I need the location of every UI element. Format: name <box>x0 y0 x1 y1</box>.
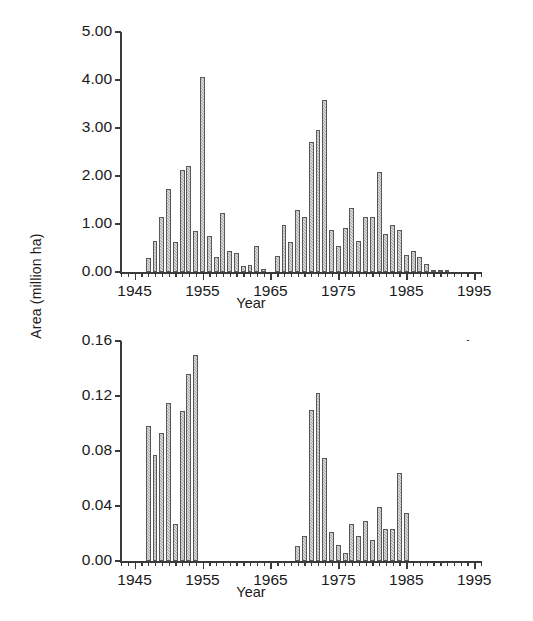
x-tick-mark-minor <box>447 562 448 566</box>
y-tick-mark <box>115 127 121 128</box>
x-tick-mark-minor <box>121 273 122 277</box>
x-tick-mark-minor <box>291 273 292 277</box>
x-tick-mark-minor <box>196 273 197 277</box>
x-tick-mark-major <box>270 273 271 280</box>
x-tick-mark-major <box>203 273 204 280</box>
plot-area-a <box>121 32 481 272</box>
bar <box>159 433 164 561</box>
x-tick-mark-minor <box>155 562 156 566</box>
bar <box>363 521 368 561</box>
x-tick-mark-minor <box>169 273 170 277</box>
x-tick-mark-minor <box>440 273 441 277</box>
x-tick-mark-minor <box>359 273 360 277</box>
x-tick-mark-minor <box>121 562 122 566</box>
bar <box>336 545 341 562</box>
bar <box>397 473 402 561</box>
x-tick-mark-minor <box>148 273 149 277</box>
x-tick-mark-major <box>135 562 136 569</box>
x-tick-mark-minor <box>243 562 244 566</box>
bar <box>329 532 334 561</box>
bar <box>316 130 321 272</box>
bar <box>193 355 198 561</box>
y-tick-mark <box>115 395 121 396</box>
bar <box>302 536 307 561</box>
bar <box>390 225 395 272</box>
x-tick-mark-minor <box>420 562 421 566</box>
bar <box>180 411 185 561</box>
y-tick-mark <box>115 450 121 451</box>
y-tick-mark <box>115 340 121 341</box>
bar <box>343 553 348 561</box>
x-tick-mark-minor <box>291 562 292 566</box>
x-tick-mark-minor <box>277 562 278 566</box>
bar <box>173 242 178 272</box>
x-tick-mark-minor <box>413 273 414 277</box>
bar <box>309 142 314 272</box>
y-axis-line-a <box>120 32 122 273</box>
bar <box>193 231 198 272</box>
x-tick-mark-minor <box>366 562 367 566</box>
bar <box>173 524 178 561</box>
y-tick-mark <box>115 31 121 32</box>
bar <box>383 234 388 272</box>
x-tick-mark-minor <box>128 562 129 566</box>
y-tick-label: 5.00 <box>42 22 112 40</box>
x-tick-mark-minor <box>420 273 421 277</box>
x-tick-label: 1975 <box>308 282 368 300</box>
y-tick-label: 0.08 <box>42 441 112 459</box>
bar <box>349 524 354 561</box>
x-tick-mark-minor <box>209 562 210 566</box>
x-tick-mark-minor <box>433 562 434 566</box>
x-tick-mark-minor <box>372 273 373 277</box>
figure-root: Area (million ha) a 0.001.002.003.004.00… <box>0 0 533 621</box>
x-tick-mark-minor <box>311 562 312 566</box>
x-tick-mark-minor <box>250 273 251 277</box>
panel-a: a 0.001.002.003.004.005.00 1945195519651… <box>0 0 533 310</box>
bar <box>370 217 375 272</box>
x-tick-mark-minor <box>345 562 346 566</box>
x-tick-mark-minor <box>298 562 299 566</box>
x-tick-mark-minor <box>216 562 217 566</box>
x-tick-mark-minor <box>372 562 373 566</box>
bar <box>363 217 368 272</box>
bar <box>159 217 164 272</box>
bar <box>220 213 225 272</box>
x-tick-mark-minor <box>325 562 326 566</box>
x-tick-label: 1945 <box>105 571 165 589</box>
y-tick-label: 0.00 <box>42 262 112 280</box>
x-tick-mark-minor <box>318 562 319 566</box>
y-tick-label: 0.00 <box>42 551 112 569</box>
x-tick-mark-minor <box>264 273 265 277</box>
x-tick-mark-minor <box>393 562 394 566</box>
x-tick-label: 1995 <box>444 571 504 589</box>
x-tick-mark-minor <box>189 562 190 566</box>
x-tick-mark-minor <box>298 273 299 277</box>
bar <box>248 265 253 272</box>
x-tick-mark-minor <box>359 562 360 566</box>
x-tick-mark-minor <box>413 562 414 566</box>
x-tick-mark-minor <box>169 562 170 566</box>
bar <box>370 540 375 561</box>
x-tick-mark-minor <box>332 273 333 277</box>
x-axis-label-b: Year <box>191 584 311 600</box>
x-tick-mark-major <box>474 562 475 569</box>
x-tick-mark-minor <box>162 562 163 566</box>
bar <box>404 513 409 561</box>
x-tick-mark-minor <box>461 273 462 277</box>
x-tick-mark-major <box>338 562 339 569</box>
x-tick-mark-minor <box>250 562 251 566</box>
bar <box>166 403 171 561</box>
bar <box>349 208 354 272</box>
x-tick-mark-minor <box>366 273 367 277</box>
bar <box>166 189 171 272</box>
bar <box>254 246 259 272</box>
x-tick-mark-minor <box>332 562 333 566</box>
x-tick-mark-minor <box>236 273 237 277</box>
panel-b: b 0.000.040.080.120.16 19451955196519751… <box>0 310 533 621</box>
y-tick-label: 0.16 <box>42 331 112 349</box>
x-tick-mark-minor <box>182 273 183 277</box>
x-tick-mark-minor <box>481 273 482 277</box>
x-tick-mark-minor <box>433 273 434 277</box>
x-tick-mark-minor <box>243 273 244 277</box>
x-tick-mark-minor <box>182 562 183 566</box>
